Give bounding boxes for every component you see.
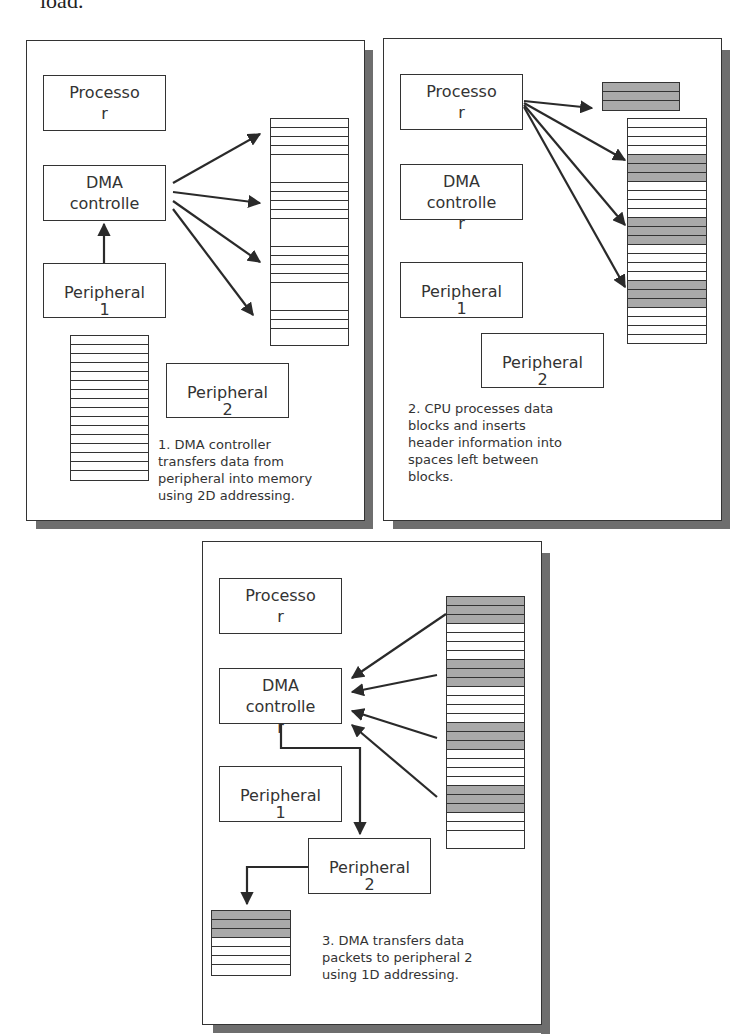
caption-line: 1. DMA controller bbox=[158, 436, 312, 453]
panel-1-dma-controller-box: DMA controlle bbox=[43, 165, 166, 221]
label: r bbox=[220, 717, 341, 738]
panel-3-processor-box: Processo r bbox=[219, 578, 342, 634]
label: r bbox=[401, 213, 522, 234]
panel-2-shadow-right bbox=[721, 50, 730, 528]
label: r bbox=[220, 606, 341, 627]
label: 1 bbox=[401, 298, 522, 319]
panel-3-shadow-bottom bbox=[213, 1024, 550, 1033]
caption-line: header information into bbox=[408, 434, 562, 451]
panel-2-caption: 2. CPU processes data blocks and inserts… bbox=[408, 400, 562, 485]
label: controlle bbox=[220, 696, 341, 717]
panel-1-peripheral-1-box: Peripheral 1 bbox=[43, 263, 166, 318]
caption-line: 2. CPU processes data bbox=[408, 400, 562, 417]
panel-3-peripheral-2-box: Peripheral 2 bbox=[308, 838, 431, 894]
label: r bbox=[401, 102, 522, 123]
panel-2-header-block bbox=[602, 82, 680, 111]
label: DMA bbox=[401, 171, 522, 192]
panel-3-shadow-right bbox=[541, 553, 550, 1034]
panel-2-peripheral-2-box: Peripheral 2 bbox=[481, 333, 604, 388]
panel-3-caption: 3. DMA transfers data packets to periphe… bbox=[322, 932, 473, 983]
header-text-fragment: load. bbox=[40, 0, 83, 14]
caption-line: using 1D addressing. bbox=[322, 966, 473, 983]
label: r bbox=[44, 103, 165, 124]
label: controlle bbox=[44, 193, 165, 214]
label: Processo bbox=[220, 585, 341, 606]
panel-1-memory-column bbox=[270, 118, 349, 346]
label: Processo bbox=[44, 82, 165, 103]
label: 1 bbox=[220, 802, 341, 823]
panel-1-shadow-right bbox=[364, 50, 373, 528]
panel-1-peripheral-2-box: Peripheral 2 bbox=[166, 363, 289, 418]
label: DMA bbox=[44, 172, 165, 193]
panel-3-memory-column bbox=[446, 596, 525, 849]
caption-line: packets to peripheral 2 bbox=[322, 949, 473, 966]
panel-1-processor-box: Processo r bbox=[43, 75, 166, 131]
panel-2-memory-column bbox=[627, 118, 707, 344]
caption-line: blocks. bbox=[408, 468, 562, 485]
panel-3-output-block bbox=[211, 910, 291, 976]
label: 1 bbox=[44, 299, 165, 320]
label: DMA bbox=[220, 675, 341, 696]
panel-2-peripheral-1-box: Peripheral 1 bbox=[400, 262, 523, 318]
label: controlle bbox=[401, 192, 522, 213]
label: 2 bbox=[482, 369, 603, 390]
panel-1-caption: 1. DMA controller transfers data from pe… bbox=[158, 436, 312, 504]
label: 2 bbox=[167, 399, 288, 420]
panel-2-processor-box: Processo r bbox=[400, 74, 523, 130]
panel-2-dma-controller-box: DMA controlle r bbox=[400, 164, 523, 220]
panel-2-shadow-bottom bbox=[393, 520, 730, 529]
caption-line: transfers data from bbox=[158, 453, 312, 470]
caption-line: blocks and inserts bbox=[408, 417, 562, 434]
panel-3-peripheral-1-box: Peripheral 1 bbox=[219, 766, 342, 822]
panel-1-shadow-bottom bbox=[36, 520, 373, 529]
caption-line: peripheral into memory bbox=[158, 470, 312, 487]
label: 2 bbox=[309, 874, 430, 895]
label: Processo bbox=[401, 81, 522, 102]
panel-3-dma-controller-box: DMA controlle r bbox=[219, 668, 342, 724]
panel-1-peripheral-data-block bbox=[70, 335, 149, 481]
caption-line: spaces left between bbox=[408, 451, 562, 468]
caption-line: using 2D addressing. bbox=[158, 487, 312, 504]
caption-line: 3. DMA transfers data bbox=[322, 932, 473, 949]
